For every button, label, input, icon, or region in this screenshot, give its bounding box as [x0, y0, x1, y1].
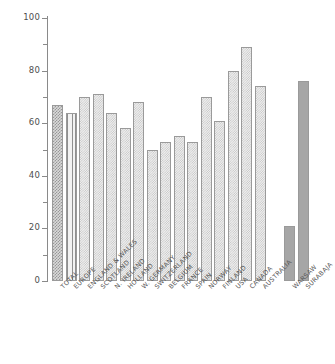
- y-tick-label: 40: [29, 170, 40, 180]
- y-tick-label: 100: [23, 12, 40, 22]
- y-tick-label: 60: [29, 117, 40, 127]
- bar: [228, 71, 239, 281]
- y-tick-label: 20: [29, 222, 40, 232]
- bar: [201, 97, 212, 281]
- y-tick-label: 80: [29, 65, 40, 75]
- bar: [241, 47, 252, 281]
- y-axis-ticks: 020406080100: [0, 0, 47, 364]
- bar: [255, 86, 266, 281]
- plot-area: [47, 0, 325, 281]
- bar: [298, 81, 309, 281]
- bar: [214, 121, 225, 281]
- bar: [133, 102, 144, 281]
- y-tick-label: 0: [34, 275, 40, 285]
- bar: [79, 97, 90, 281]
- bar: [52, 105, 63, 281]
- bar: [284, 226, 295, 281]
- tick-mark: [42, 281, 47, 282]
- bar: [93, 94, 104, 281]
- bar: [66, 113, 77, 281]
